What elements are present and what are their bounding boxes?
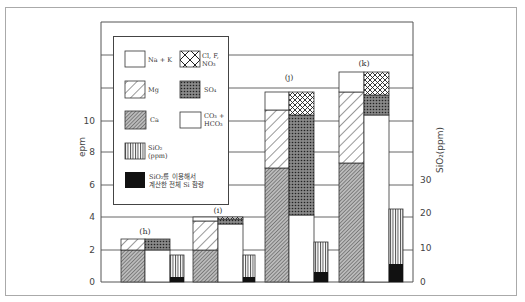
ytick-0: 0 [89,277,95,287]
bar-h-ca [121,250,145,282]
legend-swatch-co3 [180,112,201,128]
legend-label-co3-1: CO₃ + [204,112,224,120]
y-axis-label: epm [77,137,87,157]
legend-label-si-1: SiO₂를 이용해서 [149,172,196,181]
bar-k-co3 [364,115,389,282]
bar-i-ca [193,250,218,282]
y2tick-20: 20 [420,208,432,218]
label-j: (j) [285,73,294,82]
legend-label-co3-2: HCO₃ [204,120,223,128]
bar-k-si [389,264,403,282]
legend-swatch-cl [180,51,200,67]
bar-j-so4 [289,115,314,215]
legend-label-sio2-1: SiO₂ [148,144,163,152]
bar-h-mg [121,239,145,250]
label-k: (k) [358,59,369,68]
bar-i-cl [218,217,243,219]
bar-i-si [243,277,255,282]
bar-j-ca [265,168,289,282]
bar-h-so4 [145,239,170,250]
legend-label-nak: Na + K [148,56,172,64]
legend-swatch-nak [125,51,145,67]
y2-axis-label: SiO₂(ppm) [435,127,445,173]
legend-label-ca: Ca [150,116,159,124]
y2tick-30: 30 [420,175,432,185]
legend-swatch-mg [125,81,145,98]
bar-i-so4 [218,219,243,224]
chart: (h) (i) (j) (k) [0,0,525,302]
ytick-6: 6 [89,180,95,190]
bar-j-cl [289,92,314,115]
legend-swatch-so4 [180,81,200,98]
ytick-4: 4 [89,212,95,222]
legend: Na + K Cl, F, NO₃ Mg SO₄ Ca CO₃ + HCO₃ S… [114,37,229,205]
ytick-10: 10 [84,116,96,126]
bar-i-nak [193,217,218,221]
legend-swatch-sio2 [125,143,145,159]
y2tick-0: 0 [420,277,426,287]
bar-h-co3 [145,250,170,282]
ytick-2: 2 [89,245,95,255]
label-h: (h) [139,227,150,236]
bar-k-nak [339,72,364,92]
legend-label-cl-1: Cl, F, [202,52,219,60]
bar-j-si [314,272,328,282]
bar-h-si [170,277,184,282]
legend-label-sio2-2: (ppm) [148,152,168,160]
bar-j-mg [265,110,289,168]
legend-label-si-2: 계산한 전체 Si 함량 [149,180,204,189]
ytick-8: 8 [89,147,95,157]
label-i: (i) [214,206,223,215]
bar-j-nak [265,92,289,110]
bar-k-mg [339,92,364,163]
bar-i-co3 [218,224,243,282]
bar-j-co3 [289,215,314,282]
bar-k-so4 [364,95,389,115]
legend-label-cl-2: NO₃ [202,60,216,68]
bar-k-ca [339,163,364,282]
legend-swatch-ca [125,111,146,129]
legend-label-so4: SO₄ [204,86,217,94]
bar-i-mg [193,221,218,250]
y2tick-10: 10 [420,243,432,253]
legend-swatch-si [125,172,145,188]
legend-label-mg: Mg [148,86,159,94]
bar-k-cl [364,72,389,95]
